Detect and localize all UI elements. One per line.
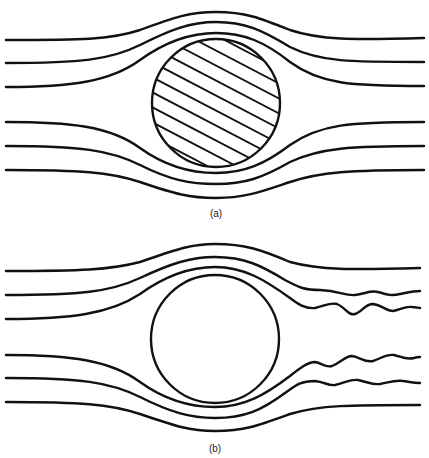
caption-a: (a) [196,208,236,219]
streamline-a-2 [6,22,424,63]
streamline-a-3 [6,33,424,87]
flow-diagram [0,0,429,458]
panel-a [6,0,424,260]
open-cylinder [151,275,279,403]
panel-b [6,244,420,431]
streamline-a-1 [6,12,424,40]
streamline-a-5 [6,146,424,184]
caption-b: (b) [195,443,235,454]
streamline-b-5 [6,378,420,418]
